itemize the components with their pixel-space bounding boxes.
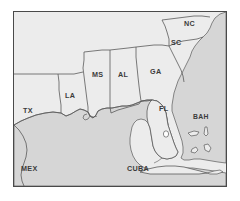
- label-ga: GA: [150, 67, 161, 76]
- label-mex: MEX: [21, 164, 37, 173]
- label-sc: SC: [171, 38, 182, 47]
- label-cuba: CUBA: [127, 164, 149, 173]
- label-ms: MS: [92, 70, 103, 79]
- bahamas-island-2: [204, 127, 208, 136]
- label-la: LA: [65, 91, 75, 100]
- map-frame: TX LA MS AL GA SC NC FL BAH MEX CUBA: [13, 11, 227, 187]
- label-fl: FL: [159, 104, 169, 113]
- label-tx: TX: [23, 106, 33, 115]
- lake-okeechobee: [163, 131, 168, 137]
- map-figure: TX LA MS AL GA SC NC FL BAH MEX CUBA: [0, 0, 240, 201]
- label-bah: BAH: [193, 113, 209, 120]
- map-drawing: TX LA MS AL GA SC NC FL BAH MEX CUBA: [14, 12, 226, 186]
- label-al: AL: [118, 70, 128, 79]
- label-nc: NC: [184, 19, 195, 28]
